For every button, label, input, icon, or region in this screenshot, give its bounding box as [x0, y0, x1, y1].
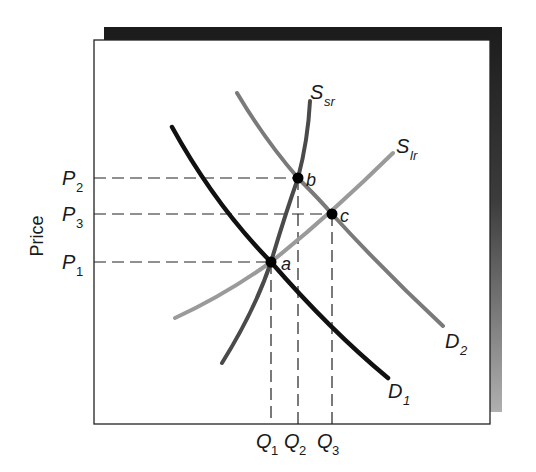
svg-text:S: S: [396, 135, 410, 157]
svg-text:Q: Q: [256, 430, 272, 452]
svg-text:D: D: [445, 330, 459, 352]
svg-text:P: P: [62, 251, 76, 273]
svg-text:P: P: [62, 203, 76, 225]
label-c: c: [340, 206, 349, 226]
tick-q3: Q 3: [317, 430, 339, 458]
svg-text:1: 1: [403, 393, 410, 408]
svg-text:S: S: [310, 81, 324, 103]
label-a: a: [281, 254, 291, 274]
svg-text:Q: Q: [284, 430, 300, 452]
y-axis-title: Price: [27, 215, 47, 256]
point-c: [327, 209, 338, 220]
label-b: b: [306, 170, 316, 190]
frame-shadow-right: [489, 27, 502, 412]
svg-text:2: 2: [76, 180, 83, 195]
plot-area: [94, 40, 490, 424]
svg-text:1: 1: [76, 264, 83, 279]
point-a: [266, 257, 277, 268]
tick-p1: P 1: [62, 251, 83, 279]
svg-text:1: 1: [271, 443, 278, 458]
svg-text:3: 3: [332, 443, 339, 458]
tick-q1: Q 1: [256, 430, 278, 458]
svg-text:3: 3: [76, 216, 83, 231]
tick-p3: P 3: [62, 203, 83, 231]
svg-text:lr: lr: [410, 148, 418, 163]
svg-text:sr: sr: [324, 94, 336, 109]
svg-text:2: 2: [299, 443, 306, 458]
svg-text:D: D: [388, 380, 402, 402]
tick-p2: P 2: [62, 167, 83, 195]
point-b: [293, 173, 304, 184]
svg-text:2: 2: [459, 343, 468, 358]
frame-shadow-top: [104, 27, 502, 41]
tick-q2: Q 2: [284, 430, 306, 458]
svg-text:Q: Q: [317, 430, 333, 452]
svg-text:P: P: [62, 167, 76, 189]
supply-demand-chart: a b c S sr S lr D 2 D 1 P 2 P 3 P 1 Q 1 …: [0, 0, 536, 472]
